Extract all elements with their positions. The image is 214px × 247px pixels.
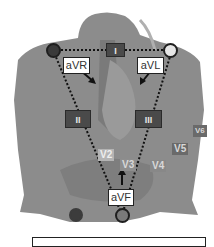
avf-label: aVF [108, 189, 134, 206]
lead-iii-box: III [135, 110, 162, 128]
legend-box [32, 237, 206, 247]
avr-label: aVR [63, 57, 90, 74]
electrode-right-leg [69, 208, 83, 222]
electrode-left-leg [115, 208, 130, 223]
lead-ii-box: II [65, 110, 91, 128]
v5-label: V5 [172, 143, 188, 155]
electrode-right-arm [46, 43, 61, 58]
electrode-left-arm [163, 43, 178, 58]
v2-label: V2 [98, 149, 114, 161]
v6-label: V6 [193, 125, 207, 137]
lead-i-box: I [106, 43, 125, 57]
v3-label: V3 [120, 159, 136, 171]
v4-label: V4 [150, 160, 166, 172]
avl-label: aVL [137, 57, 164, 74]
